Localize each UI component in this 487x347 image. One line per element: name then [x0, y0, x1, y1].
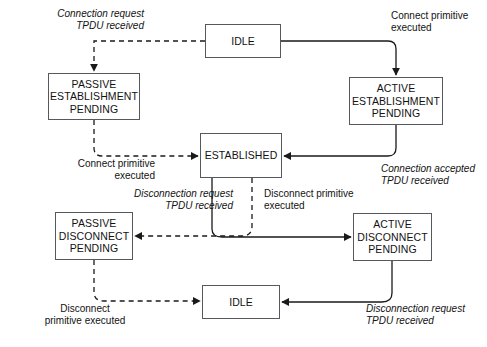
- state-passive-establishment-pending[interactable]: PASSIVE ESTABLISHMENT PENDING: [48, 73, 140, 120]
- state-label-line: PENDING: [70, 103, 119, 115]
- state-diagram: IDLE PASSIVE ESTABLISHMENT PENDING ACTIV…: [0, 0, 487, 347]
- state-idle-top[interactable]: IDLE: [205, 24, 281, 58]
- state-label-line: ESTABLISHMENT: [352, 95, 440, 107]
- state-label-line: ACTIVE: [373, 218, 412, 230]
- state-label-line: ACTIVE: [377, 82, 416, 94]
- edge-label-line: primitive executed: [19, 315, 151, 327]
- state-label-line: ESTABLISHED: [205, 149, 278, 161]
- edge-label-connection-accepted-tpdu-received: Connection accepted TPDU received: [381, 163, 487, 187]
- edge-label-line: executed: [391, 22, 487, 34]
- edge-label-disconnect-primitive-executed-bottom: Disconnect primitive executed: [19, 303, 151, 327]
- edge-label-disconnection-request-tpdu-received-bottom: Disconnection request TPDU received: [366, 303, 487, 327]
- edge-passive-disconnect-to-idle-bottom: [94, 260, 200, 301]
- edge-label-line: TPDU received: [381, 175, 487, 187]
- edge-label-disconnection-request-tpdu-received-mid: Disconnection request TPDU received: [112, 188, 233, 212]
- edge-label-line: Connect primitive: [391, 10, 487, 22]
- state-label-line: DISCONNECT: [357, 231, 427, 243]
- edge-label-line: Connect primitive: [45, 158, 155, 170]
- state-active-establishment-pending[interactable]: ACTIVE ESTABLISHMENT PENDING: [349, 77, 443, 125]
- state-idle-bottom[interactable]: IDLE: [202, 285, 280, 319]
- edge-label-line: executed: [45, 170, 155, 182]
- edge-label-line: TPDU received: [366, 315, 487, 327]
- edge-label-line: TPDU received: [112, 200, 233, 212]
- edge-label-line: executed: [264, 200, 376, 212]
- edge-label-connect-primitive-executed-left: Connect primitive executed: [45, 158, 155, 182]
- edge-label-disconnect-primitive-executed-mid: Disconnect primitive executed: [264, 188, 376, 212]
- edge-label-line: Disconnect: [19, 303, 151, 315]
- edge-passive-establishment-to-established: [94, 120, 198, 156]
- state-label-line: DISCONNECT: [59, 230, 129, 242]
- state-label-line: ESTABLISHMENT: [50, 90, 138, 102]
- state-label-line: PASSIVE: [72, 78, 117, 90]
- state-active-disconnect-pending[interactable]: ACTIVE DISCONNECT PENDING: [353, 213, 432, 261]
- state-label-line: PASSIVE: [72, 217, 117, 229]
- edge-label-connect-primitive-executed-top: Connect primitive executed: [391, 10, 487, 34]
- state-established[interactable]: ESTABLISHED: [200, 133, 282, 178]
- state-passive-disconnect-pending[interactable]: PASSIVE DISCONNECT PENDING: [55, 212, 133, 260]
- edge-idle-top-to-active-establishment: [281, 41, 396, 75]
- state-label-line: PENDING: [70, 242, 119, 254]
- edge-active-disconnect-to-idle-bottom: [282, 261, 392, 302]
- edge-idle-top-to-passive-establishment: [94, 41, 205, 71]
- edge-label-line: TPDU received: [14, 20, 144, 32]
- edge-active-establishment-to-established: [284, 125, 396, 156]
- state-label-line: PENDING: [372, 107, 421, 119]
- state-label-line: PENDING: [368, 243, 417, 255]
- edge-label-line: Disconnection request: [366, 303, 487, 315]
- edge-label-line: Disconnect primitive: [264, 188, 376, 200]
- state-label-line: IDLE: [229, 296, 253, 308]
- edge-label-connection-request-tpdu-received: Connection request TPDU received: [14, 8, 144, 32]
- edge-label-line: Connection accepted: [381, 163, 487, 175]
- edge-label-line: Connection request: [14, 8, 144, 20]
- state-label-line: IDLE: [231, 35, 255, 47]
- edge-label-line: Disconnection request: [112, 188, 233, 200]
